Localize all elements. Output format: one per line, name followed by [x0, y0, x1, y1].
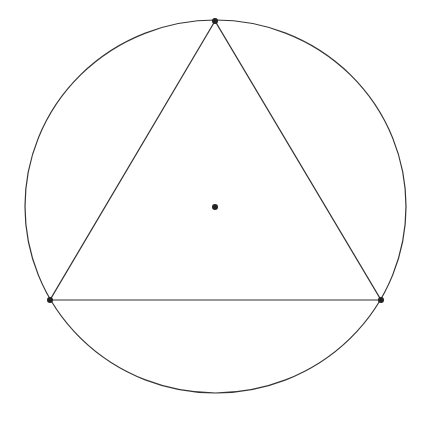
geometry-diagram	[0, 0, 433, 422]
vertex-point-bottom-right	[378, 297, 384, 303]
vertex-point-bottom-left	[47, 297, 53, 303]
center-point	[212, 204, 218, 210]
inscribed-triangle	[50, 21, 381, 300]
vertex-point-top	[212, 18, 218, 24]
